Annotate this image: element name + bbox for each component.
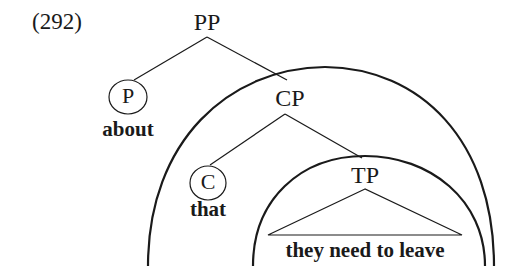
tp-content: they need to leave: [285, 240, 444, 261]
node-tp: TP: [351, 163, 379, 187]
tp-triangle: [268, 189, 462, 235]
node-p: P: [122, 85, 134, 107]
outer-arc: [148, 67, 494, 266]
node-cp: CP: [275, 86, 304, 110]
example-number: (292): [32, 10, 82, 33]
syntax-tree-diagram: (292) PP P about CP C that TP they need …: [0, 0, 520, 280]
branch-cp-c: [210, 114, 285, 165]
node-c: C: [201, 171, 216, 193]
word-about: about: [102, 119, 153, 140]
branch-pp-p: [134, 37, 207, 80]
branch-cp-tp: [285, 114, 362, 158]
node-pp: PP: [194, 10, 221, 34]
word-that: that: [190, 199, 226, 220]
